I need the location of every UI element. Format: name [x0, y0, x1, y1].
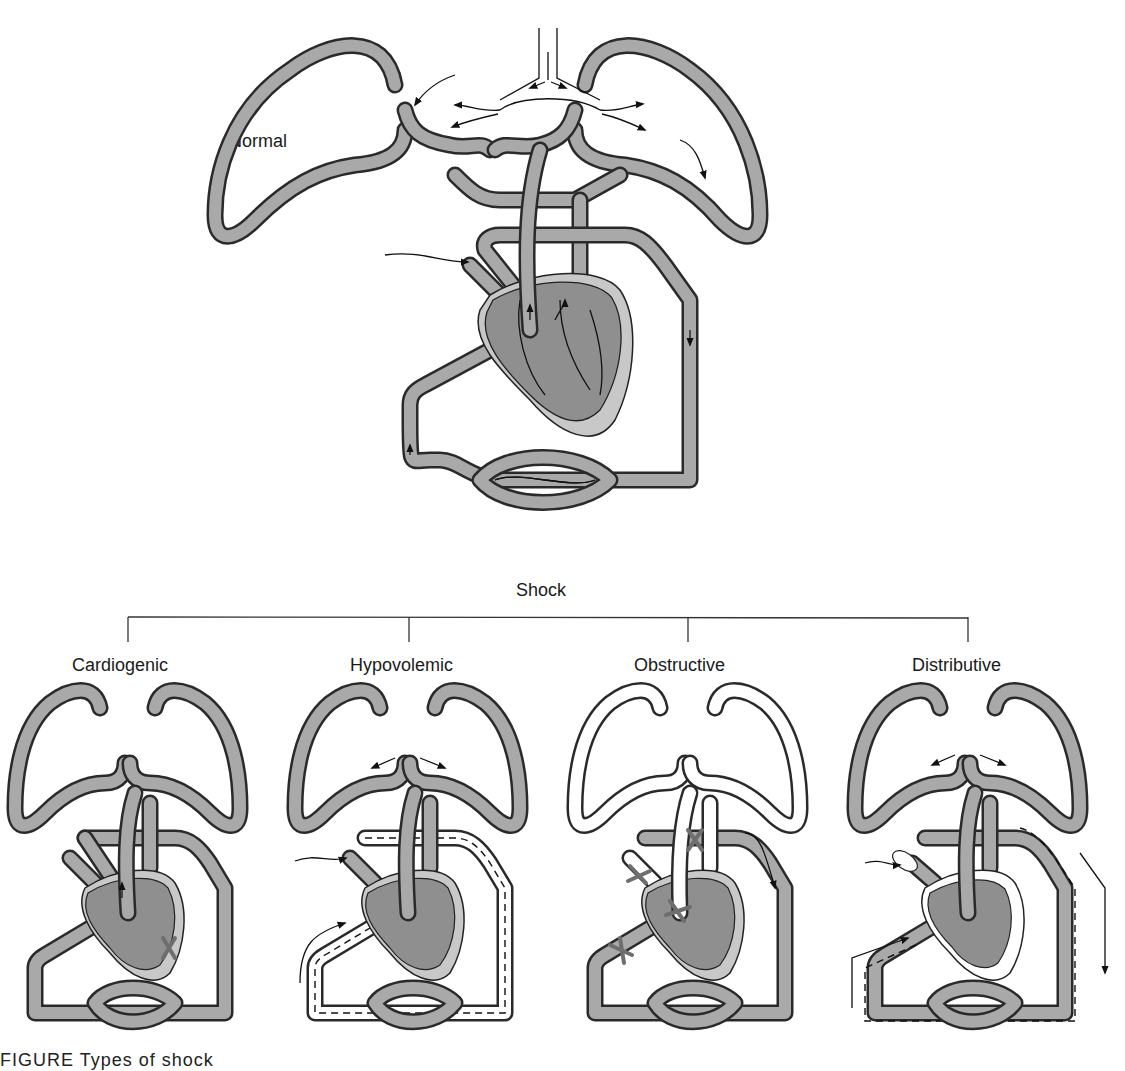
panel-obstructive [575, 691, 800, 1022]
panel-cardiogenic [15, 683, 540, 1022]
heart [478, 274, 633, 437]
panel-hypovolemic [295, 691, 520, 1022]
normal-diagram [215, 28, 760, 503]
shock-tree [128, 617, 968, 642]
panel-distributive [852, 691, 1105, 1022]
